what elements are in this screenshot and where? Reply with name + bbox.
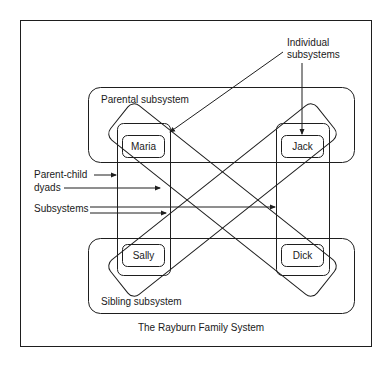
outer-frame bbox=[21, 21, 372, 347]
dyad-sally-jack bbox=[106, 101, 340, 300]
dyad-maria-dick bbox=[106, 101, 340, 300]
sibling-subsystem-label: Sibling subsystem bbox=[101, 296, 182, 307]
parental-subsystem-label: Parental subsystem bbox=[101, 94, 189, 105]
dyads-label-1: Parent-child bbox=[34, 169, 87, 180]
person-maria-label: Maria bbox=[131, 141, 156, 152]
person-jack-label: Jack bbox=[292, 141, 314, 152]
individual-subsystems-label-2: subsystems bbox=[287, 49, 340, 60]
individual-arrow-maria bbox=[170, 52, 283, 132]
dyads-label-2: dyads bbox=[34, 182, 61, 193]
subsystems-label: Subsystems bbox=[34, 203, 88, 214]
individual-subsystems-label-1: Individual bbox=[287, 37, 329, 48]
person-dick-label: Dick bbox=[293, 250, 313, 261]
family-system-diagram: Parental subsystem Sibling subsystem Mar… bbox=[0, 0, 390, 367]
diagram-title: The Rayburn Family System bbox=[138, 322, 264, 333]
person-sally-label: Sally bbox=[133, 250, 155, 261]
